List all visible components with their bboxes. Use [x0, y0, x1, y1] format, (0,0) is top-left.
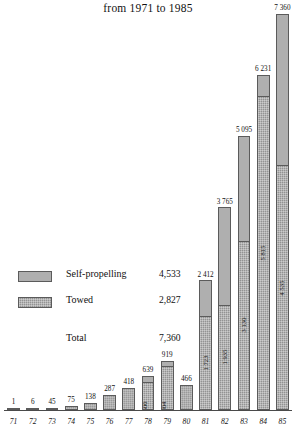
legend-item-self-propelling: Self-propelling 4,533 [18, 268, 198, 294]
bar-segment-value-label: 4 535 [279, 280, 285, 295]
bar-group: 7 3604 535 [276, 14, 289, 410]
bar-group: 3 7651 935 [218, 207, 231, 410]
x-axis-tick-82: 82 [215, 418, 234, 426]
legend-value-total: 7,360 [159, 332, 181, 343]
bar-group: 45 [46, 408, 59, 410]
bar-segment-self-propelling [276, 14, 289, 166]
bar-segment-self-propelling [180, 385, 193, 410]
bar-total-label: 287 [104, 386, 115, 393]
bar-group: 919804 [161, 361, 174, 410]
legend-label-total: Total [66, 332, 86, 343]
bar-segment-towed: 1 723 [199, 317, 212, 410]
legend-item-total: Total 7,360 [18, 332, 198, 358]
bar-group: 418 [122, 388, 135, 410]
legend-item-towed: Towed 2,827 [18, 294, 198, 320]
bar-segment-self-propelling [257, 75, 270, 97]
bar-segment-self-propelling [103, 395, 116, 410]
bar-group: 138 [84, 403, 97, 410]
bar-segment-value-label: 1 723 [202, 356, 208, 371]
bar-total-label: 75 [68, 397, 75, 404]
bar-group: 6 2315 815 [257, 75, 270, 410]
bar-total-label: 2 412 [197, 272, 213, 279]
bar-segment-self-propelling [26, 408, 39, 410]
chart-title: from 1971 to 1985 [0, 2, 296, 14]
bar-segment-towed: 804 [161, 367, 174, 410]
bar-group: 75 [65, 406, 78, 410]
x-axis-tick-74: 74 [62, 418, 81, 426]
legend-label-towed: Towed [66, 294, 93, 305]
bar-segment-self-propelling [122, 388, 135, 410]
bar-segment-towed: 1 935 [218, 306, 231, 410]
bar-total-label: 3 765 [217, 199, 233, 206]
x-axis-tick-77: 77 [119, 418, 138, 426]
bar-total-label: 138 [85, 394, 96, 401]
x-axis-tick-73: 73 [42, 418, 61, 426]
bar-segment-self-propelling [65, 406, 78, 410]
x-axis-tick-79: 79 [158, 418, 177, 426]
bar-segment-towed: 500 [142, 383, 155, 410]
bar-total-label: 639 [143, 367, 154, 374]
bar-group: 6 [26, 408, 39, 410]
legend-value-self-propelling: 4,533 [159, 268, 181, 279]
x-axis-tick-85: 85 [273, 418, 292, 426]
bar-group: 639500 [142, 376, 155, 410]
bar-total-label: 5 095 [236, 127, 252, 134]
bar-group: 287 [103, 395, 116, 410]
bar-group: 5 0953 130 [238, 136, 251, 410]
x-axis-line [4, 410, 292, 411]
chart-root: from 1971 to 1985 1645751382874186395009… [0, 0, 296, 447]
legend-swatch-towed-icon [18, 297, 52, 308]
chart-legend: Self-propelling 4,533 Towed 2,827 Total … [18, 268, 198, 358]
bar-total-label: 7 360 [274, 5, 290, 12]
bar-total-label: 6 231 [255, 66, 271, 73]
bar-total-label: 466 [181, 376, 192, 383]
legend-value-towed: 2,827 [159, 294, 181, 305]
legend-label-self-propelling: Self-propelling [66, 268, 127, 279]
bar-segment-self-propelling [84, 403, 97, 410]
plot-area: 1645751382874186395009198044662 4121 723… [0, 14, 296, 429]
x-axis-tick-75: 75 [81, 418, 100, 426]
bar-segment-self-propelling [142, 376, 155, 383]
bar-group: 1 [7, 408, 20, 410]
bar-segment-towed: 5 815 [257, 97, 270, 410]
x-axis-tick-80: 80 [177, 418, 196, 426]
bar-segment-value-label: 500 [142, 401, 148, 410]
bar-segment-self-propelling [238, 136, 251, 242]
x-axis-tick-72: 72 [23, 418, 42, 426]
x-axis-tick-83: 83 [234, 418, 253, 426]
x-axis-tick-71: 71 [4, 418, 23, 426]
bar-segment-value-label: 5 815 [260, 246, 266, 261]
bar-segment-value-label: 3 130 [241, 318, 247, 333]
x-axis-tick-76: 76 [100, 418, 119, 426]
bar-group: 2 4121 723 [199, 280, 212, 410]
bar-segment-self-propelling [46, 408, 59, 410]
bar-total-label: 6 [31, 399, 35, 406]
x-axis-tick-labels: 717273747576777879808182838485 [4, 413, 292, 427]
legend-swatch-self-propelling-icon [18, 271, 52, 282]
bar-segment-value-label: 804 [161, 401, 167, 410]
bar-segment-self-propelling [7, 408, 20, 410]
x-axis-tick-78: 78 [138, 418, 157, 426]
bar-segment-towed: 3 130 [238, 242, 251, 410]
x-axis-tick-84: 84 [254, 418, 273, 426]
bar-total-label: 1 [12, 399, 16, 406]
bar-total-label: 418 [123, 379, 134, 386]
bar-group: 466 [180, 385, 193, 410]
bar-total-label: 45 [48, 399, 55, 406]
bar-segment-self-propelling [199, 280, 212, 317]
bar-segment-towed: 4 535 [276, 166, 289, 410]
x-axis-tick-81: 81 [196, 418, 215, 426]
bar-segment-value-label: 1 935 [222, 350, 228, 365]
bar-segment-self-propelling [218, 207, 231, 305]
